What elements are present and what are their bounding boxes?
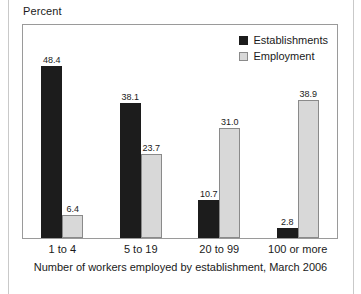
page-rule-right-divider bbox=[353, 0, 354, 294]
x-axis-tick-labels: 1 to 45 to 1920 to 99100 or more bbox=[22, 243, 338, 259]
bar-value-label: 38.9 bbox=[299, 89, 317, 99]
bar-establishments-5-to-19: 38.1 bbox=[120, 103, 141, 238]
plot-frame: Establishments Employment 48.46.438.123.… bbox=[22, 24, 338, 239]
x-tick-label-100-or-more: 100 or more bbox=[268, 243, 327, 255]
bar-chart-figure: Percent Establishments Employment 48.46.… bbox=[0, 0, 361, 294]
y-axis-caption: Percent bbox=[23, 5, 62, 17]
bar-value-label: 10.7 bbox=[200, 189, 218, 199]
x-tick-label-5-to-19: 5 to 19 bbox=[124, 243, 158, 255]
bar-value-label: 23.7 bbox=[142, 143, 160, 153]
bar-group: 2.838.9 bbox=[277, 25, 319, 238]
bar-employment-1-to-4: 6.4 bbox=[62, 215, 83, 238]
bar-group: 48.46.4 bbox=[41, 25, 83, 238]
bar-establishments-1-to-4: 48.4 bbox=[41, 66, 62, 238]
bar-employment-5-to-19: 23.7 bbox=[141, 154, 162, 238]
x-axis-title: Number of workers employed by establishm… bbox=[0, 261, 361, 273]
page-rule-left-divider bbox=[8, 0, 9, 294]
x-tick-label-1-to-4: 1 to 4 bbox=[48, 243, 76, 255]
bar-value-label: 48.4 bbox=[43, 55, 61, 65]
bar-value-label: 38.1 bbox=[121, 92, 139, 102]
plot-area: 48.46.438.123.710.731.02.838.9 bbox=[23, 25, 337, 238]
bar-value-label: 31.0 bbox=[221, 117, 239, 127]
bar-establishments-20-to-99: 10.7 bbox=[198, 200, 219, 238]
bar-group: 10.731.0 bbox=[198, 25, 240, 238]
bar-group: 38.123.7 bbox=[120, 25, 162, 238]
bar-establishments-100-or-more: 2.8 bbox=[277, 228, 298, 238]
bar-employment-20-to-99: 31.0 bbox=[219, 128, 240, 238]
x-tick-label-20-to-99: 20 to 99 bbox=[199, 243, 239, 255]
bar-value-label: 6.4 bbox=[66, 204, 79, 214]
bar-employment-100-or-more: 38.9 bbox=[298, 100, 319, 238]
bar-value-label: 2.8 bbox=[281, 217, 294, 227]
